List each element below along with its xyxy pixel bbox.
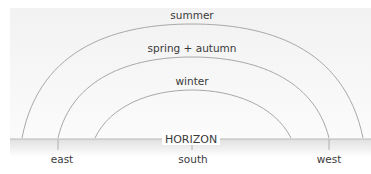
horizon-label: HORIZON <box>165 133 217 146</box>
spring-autumn-label: spring + autumn <box>148 42 237 54</box>
diagram-svg: HORIZON summer spring + autumn winter ea… <box>0 0 371 174</box>
south-label: south <box>178 153 207 165</box>
west-label: west <box>317 153 342 165</box>
east-label: east <box>51 153 73 165</box>
summer-label: summer <box>170 9 214 21</box>
sun-path-diagram: HORIZON summer spring + autumn winter ea… <box>0 0 371 174</box>
winter-label: winter <box>175 75 209 87</box>
